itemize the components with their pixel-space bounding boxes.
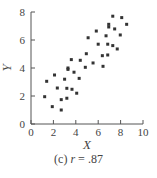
- x-tick-label: 2: [51, 126, 57, 138]
- tick-labels: 024681002468: [20, 6, 150, 138]
- data-point: [70, 58, 73, 61]
- data-point: [87, 36, 90, 39]
- data-point: [63, 78, 66, 81]
- y-tick-label: 2: [20, 90, 26, 102]
- data-point: [107, 23, 110, 26]
- data-point: [56, 87, 59, 90]
- data-point: [92, 61, 95, 64]
- x-tick-label: 6: [95, 126, 101, 138]
- y-tick-label: 8: [20, 6, 26, 18]
- data-point: [65, 97, 68, 100]
- data-point: [105, 34, 108, 37]
- x-axis-label: X: [82, 137, 92, 152]
- x-tick-label: 10: [138, 126, 150, 138]
- x-tick-label: 8: [118, 126, 124, 138]
- axes: [31, 12, 143, 124]
- data-point: [119, 33, 122, 36]
- y-tick-label: 0: [20, 118, 26, 130]
- x-tick-label: 4: [73, 126, 79, 138]
- data-point: [51, 105, 54, 108]
- data-point: [102, 65, 105, 68]
- data-point: [70, 88, 73, 91]
- data-point: [125, 23, 128, 26]
- caption-prefix: (c): [54, 152, 67, 166]
- data-point: [60, 109, 63, 112]
- data-point: [66, 67, 69, 70]
- figure-caption: (c) r = .87: [0, 152, 157, 167]
- y-tick-label: 6: [20, 34, 26, 46]
- data-point: [97, 43, 100, 46]
- data-point: [106, 43, 109, 46]
- data-points: [43, 15, 128, 112]
- y-tick-label: 4: [20, 62, 26, 74]
- data-point: [79, 59, 82, 62]
- data-point: [65, 87, 68, 90]
- data-point: [116, 47, 119, 50]
- data-point: [113, 27, 116, 30]
- data-point: [120, 16, 123, 19]
- data-point: [53, 74, 56, 77]
- data-point: [106, 53, 109, 56]
- data-point: [45, 80, 48, 83]
- x-tick-label: 0: [28, 126, 34, 138]
- caption-value: = .87: [78, 152, 103, 166]
- data-point: [111, 44, 114, 47]
- data-point: [43, 95, 46, 98]
- data-point: [95, 30, 98, 33]
- data-point: [107, 25, 110, 28]
- data-point: [84, 66, 87, 69]
- data-point: [111, 15, 114, 18]
- data-point: [75, 92, 78, 95]
- data-point: [85, 52, 88, 55]
- caption-variable: r: [70, 152, 75, 166]
- data-point: [60, 98, 63, 101]
- data-point: [78, 77, 81, 80]
- data-point: [101, 54, 104, 57]
- data-point: [73, 71, 76, 74]
- y-axis-label: Y: [0, 63, 14, 72]
